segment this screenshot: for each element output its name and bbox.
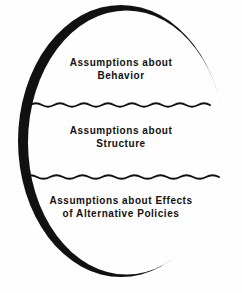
section-label-structure: Assumptions about Structure <box>0 125 242 150</box>
section-label-effects: Assumptions about Effects of Alternative… <box>0 195 242 220</box>
section-label-behavior: Assumptions about Behavior <box>0 57 242 82</box>
oval-diagram: Assumptions about Behavior Assumptions a… <box>0 0 242 293</box>
